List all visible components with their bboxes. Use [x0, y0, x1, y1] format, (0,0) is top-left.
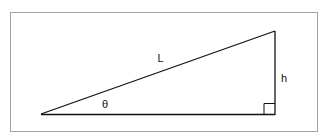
right-triangle-diagram: L h θ [0, 0, 325, 134]
hypotenuse-label: L [158, 52, 164, 64]
angle-label: θ [102, 98, 108, 110]
hypotenuse-line [41, 31, 275, 114]
right-angle-marker [264, 104, 275, 115]
frame-border [11, 13, 318, 132]
height-label: h [281, 72, 287, 84]
